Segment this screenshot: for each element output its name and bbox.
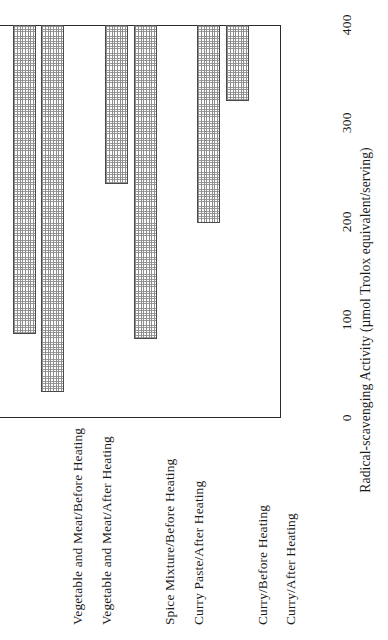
category-label: Curry/Before Heating [255,505,271,625]
category-label: Curry/After Heating [283,513,299,625]
category-label: Curry Paste/After Heating [191,481,207,625]
category-label: Spice Mixture/Before Heating [162,459,178,625]
category-label: Vegetable and Meat/Before Heating [70,428,86,625]
category-axis-labels: Vegetable and Meat/Before HeatingVegetab… [0,0,388,640]
category-label: Vegetable and Meat/After Heating [99,436,115,625]
